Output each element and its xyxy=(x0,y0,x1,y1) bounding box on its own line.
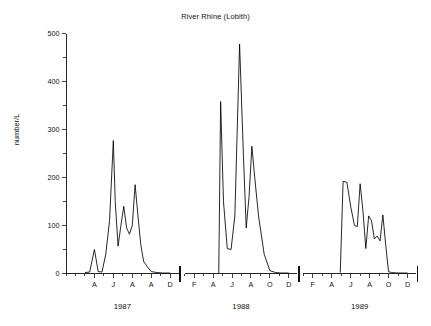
x-tick-label: A xyxy=(211,280,216,289)
x-tick-label: A xyxy=(130,280,135,289)
x-tick-label: A xyxy=(367,280,372,289)
data-series-line xyxy=(340,181,407,273)
y-tick-label: 300 xyxy=(48,125,60,134)
chart-figure: River Rhine (Lobith) number/L 0100200300… xyxy=(0,0,431,326)
year-label: 1988 xyxy=(232,302,249,311)
year-label: 1989 xyxy=(351,302,368,311)
x-tick-label: J xyxy=(349,280,353,289)
x-tick-label: J xyxy=(112,280,116,289)
x-tick-label: D xyxy=(405,280,410,289)
data-series-line xyxy=(219,44,289,273)
x-tick-label: J xyxy=(230,280,234,289)
data-series-group xyxy=(85,44,408,273)
year-label: 1987 xyxy=(114,302,131,311)
data-series-line xyxy=(85,141,170,273)
y-tick-label: 200 xyxy=(48,173,60,182)
plot-area: 0100200300400500 AJAADFAJAODFAJAOD 19871… xyxy=(0,0,431,326)
year-labels: 198719881989 xyxy=(114,302,369,311)
x-tick-label: D xyxy=(286,280,291,289)
y-axis: 0100200300400500 xyxy=(48,29,67,278)
x-tick-label: A xyxy=(149,280,154,289)
x-axis: AJAADFAJAODFAJAOD xyxy=(66,266,418,290)
y-tick-label: 100 xyxy=(48,221,60,230)
x-tick-label: A xyxy=(249,280,254,289)
x-tick-label: F xyxy=(192,280,197,289)
x-tick-label: F xyxy=(311,280,316,289)
x-tick-label: A xyxy=(329,280,334,289)
x-tick-label: D xyxy=(168,280,173,289)
y-tick-label: 400 xyxy=(48,77,60,86)
y-tick-label: 0 xyxy=(56,269,60,278)
y-tick-label: 500 xyxy=(48,29,60,38)
x-tick-label: A xyxy=(92,280,97,289)
x-tick-label: O xyxy=(386,280,392,289)
x-tick-label: O xyxy=(267,280,273,289)
